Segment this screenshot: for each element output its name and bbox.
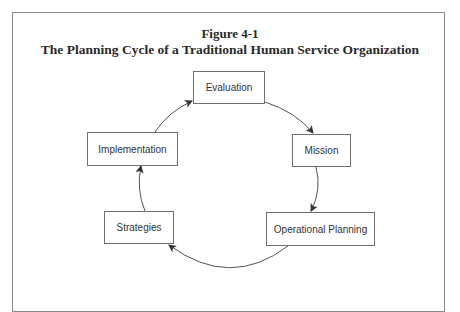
node-evaluation: Evaluation [193, 71, 265, 104]
arrow-mission-to-operational-planning [311, 167, 318, 211]
node-strategies: Strategies [104, 211, 174, 244]
arrow-implementation-to-evaluation [155, 101, 192, 132]
arrow-evaluation-to-mission [265, 102, 313, 133]
node-mission: Mission [292, 134, 351, 167]
node-operational-planning: Operational Planning [266, 212, 375, 246]
arrow-operational-planning-to-strategies [169, 245, 288, 268]
node-implementation: Implementation [87, 132, 178, 166]
arrow-strategies-to-implementation [139, 166, 145, 211]
